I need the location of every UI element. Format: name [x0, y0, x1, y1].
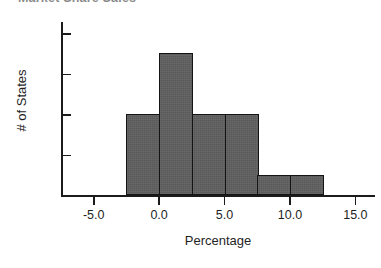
chart-title: Market Share Sales [18, 0, 358, 3]
x-tick-mark [93, 196, 95, 205]
x-tick-mark [355, 196, 357, 205]
x-tick-mark [224, 196, 226, 205]
y-tick-mark [62, 155, 71, 157]
plot-area: 2468 -5.00.05.010.015.0 [61, 22, 375, 196]
x-tick-mark [158, 196, 160, 205]
y-tick-mark [62, 114, 71, 116]
histogram-bar [159, 53, 193, 195]
histogram-bar [126, 114, 160, 195]
histogram-bar [192, 114, 226, 195]
x-tick-label: 0.0 [129, 209, 189, 222]
y-tick-mark [62, 74, 71, 76]
x-tick-label: 15.0 [325, 209, 381, 222]
x-tick-label: 10.0 [260, 209, 320, 222]
histogram-bar [257, 175, 291, 195]
x-tick-label: 5.0 [195, 209, 255, 222]
y-axis-title: # of States [14, 41, 29, 161]
x-axis-line [61, 195, 375, 197]
y-tick-mark [62, 33, 71, 35]
x-tick-label: -5.0 [64, 209, 124, 222]
y-axis-line [61, 22, 63, 196]
x-axis-title: Percentage [61, 233, 375, 248]
histogram-figure: Market Share Sales 2468 -5.00.05.010.015… [0, 0, 381, 268]
histogram-bar [290, 175, 324, 195]
histogram-bar [225, 114, 259, 195]
x-tick-mark [289, 196, 291, 205]
